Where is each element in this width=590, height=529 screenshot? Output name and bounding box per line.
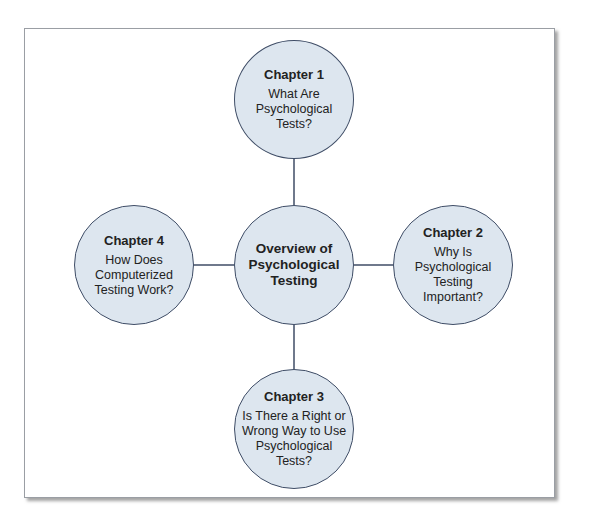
node-chapter-3: Chapter 3 Is There a Right or Wrong Way …: [234, 369, 354, 489]
node-chapter-title: Is There a Right or Wrong Way to Use Psy…: [242, 409, 346, 469]
node-chapter-4: Chapter 4 How Does Computerized Testing …: [74, 205, 194, 325]
node-chapter-title: Why Is Psychological Testing Important?: [415, 245, 491, 305]
node-chapter-title: How Does Computerized Testing Work?: [95, 253, 174, 298]
center-title: Overview of Psychological Testing: [249, 241, 340, 289]
node-chapter-1: Chapter 1 What Are Psychological Tests?: [234, 40, 354, 159]
node-chapter-label: Chapter 3: [264, 389, 324, 404]
node-chapter-title: What Are Psychological Tests?: [256, 87, 332, 132]
node-chapter-2: Chapter 2 Why Is Psychological Testing I…: [393, 205, 513, 325]
node-center-overview: Overview of Psychological Testing: [234, 205, 354, 325]
node-chapter-label: Chapter 4: [104, 233, 164, 248]
node-chapter-label: Chapter 1: [264, 67, 324, 82]
node-chapter-label: Chapter 2: [423, 225, 483, 240]
